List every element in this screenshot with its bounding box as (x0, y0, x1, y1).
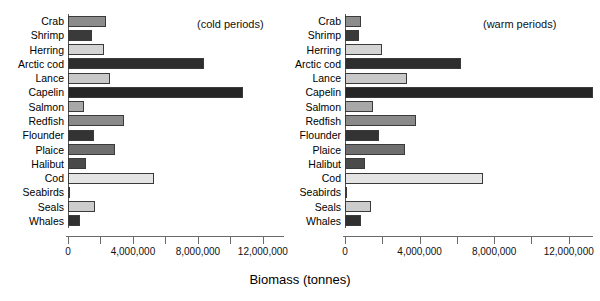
bar-row: Seals (68, 199, 284, 213)
bar-capelin (345, 87, 593, 98)
category-label-redfish: Redfish (305, 116, 341, 127)
x-tick (100, 237, 101, 244)
bar-row: Capelin (345, 85, 593, 99)
bar-row: Herring (68, 43, 284, 57)
category-label-cod: Cod (322, 173, 341, 184)
category-label-shrimp: Shrimp (31, 30, 64, 41)
category-label-lance: Lance (35, 73, 64, 84)
bar-row: Redfish (345, 114, 593, 128)
category-label-lance: Lance (312, 73, 341, 84)
category-label-arctic-cod: Arctic cod (295, 59, 341, 70)
bar-seabirds (68, 187, 70, 198)
x-tick (457, 237, 458, 244)
bar-row: Seabirds (345, 185, 593, 199)
x-tick-label: 0 (342, 246, 348, 257)
category-label-crab: Crab (318, 16, 341, 27)
bar-row: Halibut (68, 157, 284, 171)
bar-row: Arctic cod (68, 57, 284, 71)
x-tick-label: 8,000,000 (176, 246, 221, 257)
x-tick (165, 237, 166, 244)
bar-seabirds (345, 187, 347, 198)
category-label-capelin: Capelin (28, 87, 64, 98)
category-label-seabirds: Seabirds (23, 187, 64, 198)
category-label-shrimp: Shrimp (308, 30, 341, 41)
bar-row: Halibut (345, 157, 593, 171)
biomass-figure: (cold periods) CrabShrimpHerringArctic c… (0, 0, 600, 301)
bar-row: Seals (345, 199, 593, 213)
bar-flounder (345, 130, 379, 141)
bar-redfish (345, 115, 416, 126)
x-tick (420, 237, 421, 244)
bar-rows-warm: CrabShrimpHerringArctic codLanceCapelinS… (345, 14, 593, 228)
bar-row: Plaice (345, 142, 593, 156)
plot-area-warm: CrabShrimpHerringArctic codLanceCapelinS… (345, 14, 593, 228)
category-label-whales: Whales (29, 216, 64, 227)
bar-shrimp (68, 30, 92, 41)
bar-seals (68, 201, 95, 212)
x-tick (382, 237, 383, 244)
category-label-plaice: Plaice (35, 144, 64, 155)
bar-row: Salmon (68, 100, 284, 114)
x-tick (569, 237, 570, 244)
bar-shrimp (345, 30, 359, 41)
bar-row: Lance (68, 71, 284, 85)
x-tick-label: 12,000,000 (238, 246, 288, 257)
bar-lance (68, 73, 110, 84)
bar-flounder (68, 130, 94, 141)
x-axis-line-cold (66, 236, 284, 237)
x-tick (68, 237, 69, 244)
bar-row: Plaice (68, 142, 284, 156)
bar-plaice (345, 144, 405, 155)
x-tick-label: 12,000,000 (544, 246, 594, 257)
bar-row: Flounder (68, 128, 284, 142)
x-tick-label: 8,000,000 (472, 246, 517, 257)
x-tick-label: 4,000,000 (111, 246, 156, 257)
bar-row: Seabirds (68, 185, 284, 199)
x-axis-title: Biomass (tonnes) (0, 272, 600, 287)
bar-row: Capelin (68, 85, 284, 99)
bar-whales (345, 215, 361, 226)
category-label-halibut: Halibut (308, 159, 341, 170)
category-label-seals: Seals (315, 201, 341, 212)
bar-capelin (68, 87, 243, 98)
category-label-whales: Whales (306, 216, 341, 227)
bar-row: Crab (68, 14, 284, 28)
plot-area-cold: CrabShrimpHerringArctic codLanceCapelinS… (68, 14, 284, 228)
category-label-herring: Herring (30, 44, 64, 55)
bar-arctic-cod (68, 58, 204, 69)
bar-row: Whales (68, 214, 284, 228)
bar-row: Crab (345, 14, 593, 28)
bar-row: Arctic cod (345, 57, 593, 71)
x-axis-line-warm (343, 236, 593, 237)
bar-cod (68, 173, 154, 184)
x-tick-label: 0 (65, 246, 71, 257)
bar-row: Herring (345, 43, 593, 57)
bar-redfish (68, 115, 124, 126)
x-tick (494, 237, 495, 244)
bar-crab (68, 16, 106, 27)
category-label-redfish: Redfish (28, 116, 64, 127)
category-label-herring: Herring (307, 44, 341, 55)
x-tick (345, 237, 346, 244)
bar-row: Redfish (68, 114, 284, 128)
bar-row: Cod (345, 171, 593, 185)
x-tick (263, 237, 264, 244)
bar-crab (345, 16, 361, 27)
bar-row: Salmon (345, 100, 593, 114)
category-label-flounder: Flounder (23, 130, 64, 141)
bar-lance (345, 73, 407, 84)
category-label-cod: Cod (45, 173, 64, 184)
bar-row: Whales (345, 214, 593, 228)
bar-seals (345, 201, 371, 212)
panel-cold-periods: (cold periods) CrabShrimpHerringArctic c… (0, 0, 300, 301)
bar-herring (68, 44, 104, 55)
category-label-arctic-cod: Arctic cod (18, 59, 64, 70)
x-tick (230, 237, 231, 244)
category-label-halibut: Halibut (31, 159, 64, 170)
bar-cod (345, 173, 483, 184)
bar-halibut (345, 158, 365, 169)
bar-plaice (68, 144, 115, 155)
bar-row: Lance (345, 71, 593, 85)
category-label-crab: Crab (41, 16, 64, 27)
bar-salmon (345, 101, 373, 112)
